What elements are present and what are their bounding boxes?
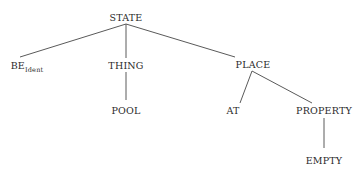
node-be-ident: BEIdent — [11, 61, 44, 74]
conceptual-structure-tree: STATE BEIdent THING PLACE POOL AT PROPER… — [0, 0, 356, 179]
node-pool-label: POOL — [111, 105, 140, 116]
node-property-label: PROPERTY — [296, 105, 352, 116]
edge-place-at — [240, 71, 252, 103]
node-state: STATE — [110, 13, 143, 23]
tree-edges — [0, 0, 356, 179]
node-at: AT — [226, 106, 239, 116]
node-at-label: AT — [226, 105, 239, 116]
node-pool: POOL — [111, 106, 140, 116]
node-be-subscript: Ident — [25, 66, 43, 74]
node-property: PROPERTY — [296, 106, 352, 116]
node-thing: THING — [108, 61, 143, 71]
node-place-label: PLACE — [236, 59, 271, 70]
node-place: PLACE — [236, 60, 271, 70]
node-state-label: STATE — [110, 12, 143, 23]
node-empty: EMPTY — [306, 156, 343, 166]
node-be-label: BE — [11, 60, 25, 71]
edge-state-be — [20, 24, 126, 57]
node-thing-label: THING — [108, 60, 143, 71]
node-empty-label: EMPTY — [306, 155, 343, 166]
edge-state-place — [126, 24, 235, 57]
edge-place-property — [252, 71, 312, 103]
